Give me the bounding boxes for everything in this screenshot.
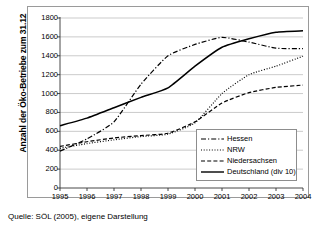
source-caption: Quelle: SÖL (2005), eigene Darstellung [8,212,148,222]
legend-line-sample-icon [200,145,225,155]
legend-item-niedersachsen[interactable]: Niedersachsen [200,155,293,166]
legend-line-sample-icon [200,156,225,166]
x-tick-label: 1999 [153,192,183,201]
x-tick-label: 1995 [45,192,75,201]
x-tick-label: 2004 [288,192,314,201]
x-tick-label: 2003 [261,192,291,201]
x-tick-label: 1998 [126,192,156,201]
x-tick-label: 2001 [207,192,237,201]
legend-item-label: Niedersachsen [225,156,277,166]
legend-item-label: Hessen [225,134,252,144]
legend-line-sample-icon [200,167,225,177]
legend-item-deutschland-div-10[interactable]: Deutschland (div 10) [200,166,293,177]
x-tick-label: 1996 [72,192,102,201]
x-axis-tick-labels: 1995199619971998199920002001200220032004 [0,0,314,228]
x-tick-label: 2000 [180,192,210,201]
figure: Anzahl der Öko-Betriebe zum 31.12 020040… [0,0,314,228]
legend-item-hessen[interactable]: Hessen [200,133,293,144]
legend-line-sample-icon [200,134,225,144]
x-tick-label: 2002 [234,192,264,201]
legend-item-label: Deutschland (div 10) [225,167,296,177]
legend-item-label: NRW [225,145,245,155]
legend-item-nrw[interactable]: NRW [200,144,293,155]
x-tick-label: 1997 [99,192,129,201]
chart-legend: HessenNRWNiedersachsenDeutschland (div 1… [196,129,297,181]
